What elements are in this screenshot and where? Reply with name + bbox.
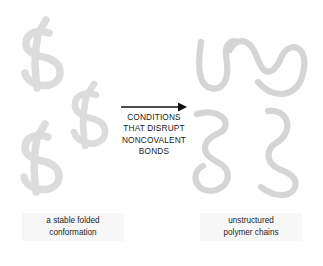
left-panel-caption: a stable folded conformation [22, 213, 124, 241]
process-label-line-1: CONDITIONS [112, 112, 196, 123]
process-label-line-4: BONDS [112, 146, 196, 157]
polymer-chain-2 [230, 41, 304, 94]
right-panel-caption: unstructured polymer chains [200, 213, 302, 241]
process-arrow-label: CONDITIONS THAT DISRUPT NONCOVALENT BOND… [112, 112, 196, 158]
right-caption-line-1: unstructured [200, 215, 302, 227]
process-label-line-3: NONCOVALENT [112, 135, 196, 146]
protein-denaturation-diagram: CONDITIONS THAT DISRUPT NONCOVALENT BOND… [0, 0, 323, 266]
polymer-chain-3 [196, 112, 228, 190]
left-caption-line-1: a stable folded [22, 215, 124, 227]
polymer-chain-4 [261, 111, 295, 195]
left-caption-line-2: conformation [22, 227, 124, 239]
process-label-line-2: THAT DISRUPT [112, 123, 196, 134]
right-caption-line-2: polymer chains [200, 227, 302, 239]
